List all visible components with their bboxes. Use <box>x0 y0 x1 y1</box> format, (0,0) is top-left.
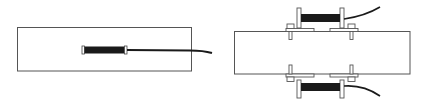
diagram-canvas <box>0 0 424 103</box>
top-gauge-icon <box>301 14 340 22</box>
embedded-gauge-panel <box>18 28 213 72</box>
right-block <box>235 32 411 75</box>
embedded-gauge-icon <box>82 46 127 54</box>
bottom-gauge-icon <box>301 83 340 91</box>
top-cable <box>344 7 380 19</box>
strain-gauge-diagram <box>0 0 424 103</box>
surface-gauge-panel <box>235 7 411 98</box>
bottom-cable <box>344 86 380 96</box>
